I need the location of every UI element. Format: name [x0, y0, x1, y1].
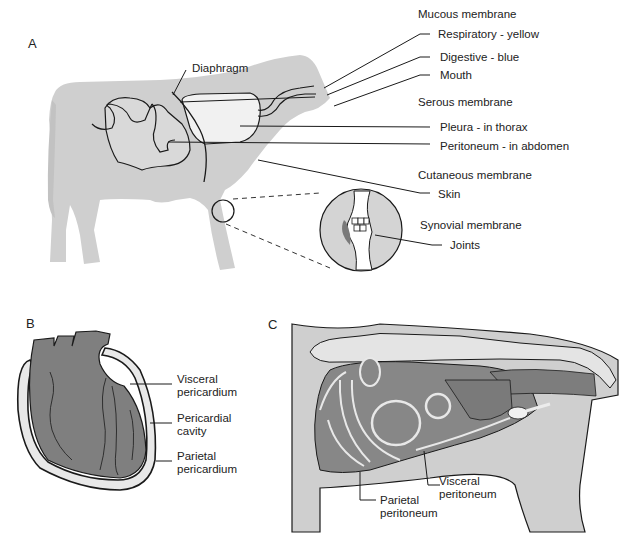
joint-detail-circle: [320, 189, 402, 271]
skin-label: Skin: [438, 188, 460, 201]
bladder: [508, 407, 528, 419]
cutaneous-membrane-heading: Cutaneous membrane: [418, 169, 532, 182]
pericardial-cavity-label: Pericardial cavity: [177, 412, 231, 438]
synovial-membrane-heading: Synovial membrane: [420, 219, 522, 232]
abdomen-cross-section: [280, 300, 639, 546]
joints-label: Joints: [450, 239, 480, 252]
panel-c-letter: C: [268, 317, 277, 332]
panel-b-heart-pericardium: B Visceral pericardium Pericardial cavit…: [0, 300, 290, 546]
label-line: Visceral: [439, 475, 480, 487]
label-line: Pericardial: [177, 412, 231, 424]
cow-silhouette: [49, 55, 330, 270]
mouth-label: Mouth: [440, 69, 472, 82]
label-line: pericardium: [177, 463, 237, 475]
label-line: peritoneum: [380, 507, 438, 519]
serous-membrane-heading: Serous membrane: [418, 96, 513, 109]
parietal-pericardium-label: Parietal pericardium: [177, 450, 237, 476]
label-line: cavity: [177, 425, 206, 437]
label-line: Visceral: [177, 373, 218, 385]
digestive-label: Digestive - blue: [440, 51, 519, 64]
heart-illustration: [0, 300, 290, 546]
label-line: pericardium: [177, 386, 237, 398]
organ-round-large: [372, 401, 420, 445]
panel-b-letter: B: [26, 316, 35, 331]
pleura-label: Pleura - in thorax: [440, 121, 528, 134]
mucous-membrane-heading: Mucous membrane: [418, 8, 516, 21]
visceral-peritoneum-label: Visceral peritoneum: [439, 475, 497, 501]
panel-a-cow-membranes: A Diaphragm Mucous membrane Respiratory …: [0, 0, 639, 300]
kidney: [360, 358, 380, 386]
diaphragm-label: Diaphragm: [192, 62, 248, 75]
panel-c-abdominal-peritoneum: C Visceral peritoneum Parietal peritoneu…: [280, 300, 639, 546]
respiratory-label: Respiratory - yellow: [438, 28, 539, 41]
label-line: Parietal: [380, 494, 419, 506]
visceral-pericardium-label: Visceral pericardium: [177, 373, 237, 399]
label-line: peritoneum: [439, 488, 497, 500]
peritoneum-label: Peritoneum - in abdomen: [440, 140, 569, 153]
organ-round-small: [426, 394, 450, 418]
parietal-peritoneum-label: Parietal peritoneum: [380, 494, 438, 520]
panel-a-letter: A: [28, 36, 37, 51]
label-line: Parietal: [177, 450, 216, 462]
heart-shape: [30, 331, 147, 478]
